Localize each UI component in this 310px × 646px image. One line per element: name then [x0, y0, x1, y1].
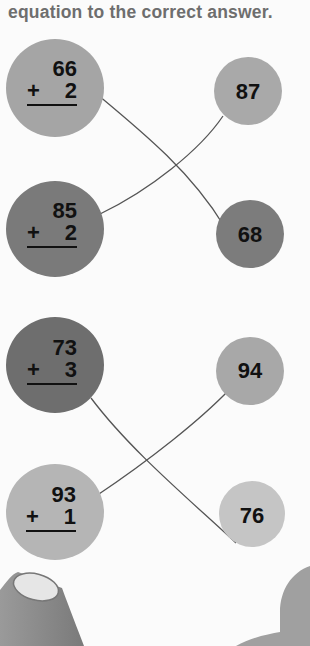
equation-3-top: 73 [53, 337, 77, 359]
equation-2-addend: 2 [65, 222, 77, 244]
line-93-to-94 [96, 390, 229, 496]
equation-1-addend: 2 [65, 80, 77, 102]
equation-1-top: 66 [53, 58, 77, 80]
equation-3: 73 +3 [27, 337, 77, 385]
line-66-to-68 [92, 90, 224, 226]
equation-2-operator: + [27, 222, 40, 244]
equation-4-top: 93 [52, 484, 76, 506]
decorative-illustration [0, 560, 310, 646]
equation-3-operator: + [27, 359, 40, 381]
equation-1: 66 +2 [27, 58, 77, 106]
equation-4-addend: 1 [64, 506, 76, 528]
equation-3-addend: 3 [65, 359, 77, 381]
round-shape-icon [236, 566, 310, 646]
answer-94: 94 [216, 358, 284, 384]
equation-4-operator: + [26, 506, 39, 528]
answer-68: 68 [216, 222, 284, 248]
equation-2: 85 +2 [27, 200, 77, 248]
line-73-to-76 [91, 398, 236, 543]
equation-4: 93 +1 [26, 484, 76, 532]
equation-1-operator: + [27, 80, 40, 102]
answer-87: 87 [214, 79, 282, 105]
answer-76: 76 [219, 503, 285, 529]
line-85-to-87 [100, 116, 223, 214]
equation-2-top: 85 [53, 200, 77, 222]
